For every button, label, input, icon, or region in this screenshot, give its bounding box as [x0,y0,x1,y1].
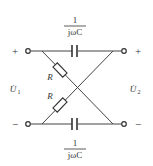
terminal-right-minus [122,122,127,127]
u2-subscript: 2 [138,89,141,95]
resistor-1-body [53,63,67,77]
terminal-right-plus [122,49,127,54]
resistor-1 [53,63,67,77]
bottom-denominator: jωC [67,150,82,160]
top-numerator: 1 [73,15,78,25]
top-capacitor-impedance-label: 1 jωC [64,15,86,37]
resistor-2 [53,98,67,112]
u1-symbol: U̇ [10,84,17,94]
bottom-capacitor-impedance-label: 1 jωC [64,138,86,160]
left-minus-sign: − [12,118,18,130]
top-denominator: jωC [67,27,82,37]
left-plus-sign: + [12,45,18,57]
terminal-left-plus [26,49,31,54]
circuit-diagram: 1 jωC R R + + − − U̇ 1 U̇ 2 1 [0,0,153,166]
resistor-2-label: R [46,91,53,101]
right-minus-sign: − [135,118,141,130]
bottom-numerator: 1 [73,138,78,148]
terminal-left-minus [26,122,31,127]
u2-symbol: U̇ [130,84,137,94]
right-port-voltage: U̇ 2 [130,84,141,95]
resistor-1-label: R [46,72,53,82]
left-port-voltage: U̇ 1 [10,84,21,95]
right-plus-sign: + [135,45,141,57]
u1-subscript: 1 [18,89,21,95]
resistor-2-body [53,98,67,112]
